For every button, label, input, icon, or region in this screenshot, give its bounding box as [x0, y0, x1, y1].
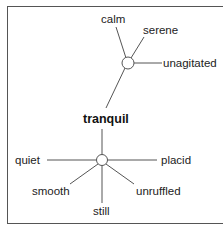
- bottom-hub-node: [97, 155, 108, 166]
- edge-calm: [116, 27, 126, 58]
- word-placid: placid: [161, 154, 191, 166]
- word-tranquil: tranquil: [83, 113, 129, 125]
- top-hub-node: [122, 57, 134, 69]
- word-still: still: [93, 205, 110, 217]
- word-calm: calm: [101, 13, 125, 25]
- edge-top-to-tranquil: [106, 68, 125, 108]
- word-unruffled: unruffled: [136, 185, 181, 197]
- word-serene: serene: [143, 24, 178, 36]
- edge-serene: [131, 37, 144, 58]
- edge-unruffled: [106, 164, 134, 184]
- word-smooth: smooth: [32, 185, 70, 197]
- edge-smooth: [70, 164, 98, 184]
- word-unagitated: unagitated: [163, 57, 217, 69]
- word-quiet: quiet: [15, 154, 40, 166]
